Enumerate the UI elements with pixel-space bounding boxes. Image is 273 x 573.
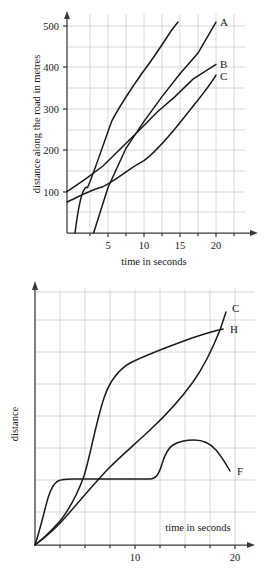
- top-chart-figure: A B C 500 400 300 200 100 5 10 15 20 tim…: [0, 0, 273, 272]
- ytick-label: 100: [43, 187, 59, 198]
- xtick-label: 15: [175, 240, 186, 251]
- bottom-chart-y-axis-title: distance: [9, 406, 20, 441]
- ytick-label: 500: [43, 21, 59, 32]
- curve-a: [75, 22, 178, 233]
- curve-a-main: [94, 22, 216, 233]
- curve-c: [35, 312, 226, 545]
- bottom-chart-curves: [35, 312, 230, 545]
- bottom-chart-svg: C H F 10 20 time in seconds distance: [0, 272, 273, 573]
- top-chart-gridlines: [67, 14, 245, 233]
- curve-label-f: F: [237, 465, 243, 477]
- y-axis-arrow: [64, 11, 70, 19]
- xtick-label: 5: [105, 240, 110, 251]
- top-chart-svg: A B C 500 400 300 200 100 5 10 15 20 tim…: [0, 0, 273, 272]
- x-axis-arrow: [250, 230, 258, 236]
- curve-h: [35, 329, 223, 545]
- xtick-label: 20: [211, 240, 222, 251]
- curve-label-h: H: [230, 323, 238, 335]
- top-chart-axes: [63, 11, 258, 237]
- top-chart-y-axis-title: distance along the road in metres: [31, 55, 42, 194]
- top-chart-ytick-labels: 500 400 300 200 100: [43, 21, 59, 198]
- top-chart-x-axis-title: time in seconds: [121, 256, 186, 267]
- ytick-label: 300: [43, 104, 59, 115]
- bottom-chart-xtick-labels: 10 20: [130, 552, 241, 563]
- bottom-chart-curve-labels: C H F: [230, 302, 243, 477]
- top-chart-curve-labels: A B C: [220, 16, 228, 82]
- bottom-chart-x-axis-title: time in seconds: [165, 522, 230, 533]
- curve-label-c: C: [220, 70, 227, 82]
- curve-label-c: C: [232, 302, 239, 314]
- x-axis-arrow: [247, 542, 255, 548]
- curve-label-b: B: [220, 58, 227, 70]
- xtick-label: 10: [139, 240, 150, 251]
- bottom-chart-gridlines: [35, 289, 255, 545]
- curve-b: [67, 64, 216, 191]
- xtick-label: 10: [130, 552, 141, 563]
- y-axis-arrow: [32, 281, 38, 290]
- bottom-chart-axes: [32, 281, 255, 549]
- ytick-label: 400: [43, 62, 59, 73]
- bottom-chart-figure: C H F 10 20 time in seconds distance: [0, 272, 273, 573]
- xtick-label: 20: [230, 552, 241, 563]
- ytick-label: 200: [43, 145, 59, 156]
- top-chart-xtick-labels: 5 10 15 20: [105, 240, 221, 251]
- curve-label-a: A: [220, 16, 228, 28]
- top-chart-curves: [67, 22, 216, 233]
